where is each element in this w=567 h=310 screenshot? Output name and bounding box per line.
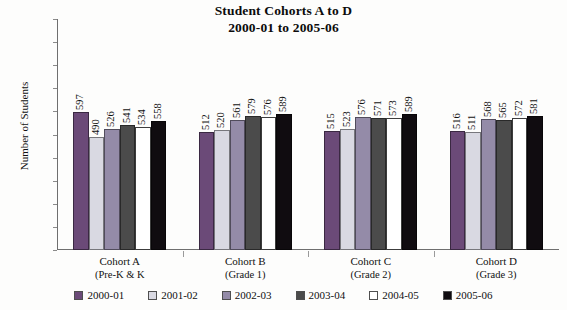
- page-title: Student Cohorts A to D: [0, 2, 567, 19]
- bar-value-label: 520: [215, 112, 226, 128]
- bar[interactable]: 520: [214, 130, 230, 250]
- bar-group: 512520561579576589: [183, 19, 309, 250]
- bar-value-label: 541: [121, 107, 132, 123]
- legend-label: 2003-04: [309, 290, 346, 301]
- bar[interactable]: 511: [465, 132, 481, 250]
- category-sublabel: (Grade 1): [183, 268, 309, 281]
- bar[interactable]: 576: [261, 117, 277, 250]
- bar-value-label: 561: [231, 103, 242, 119]
- bar-value-label: 589: [403, 96, 414, 112]
- bar-value-label: 558: [152, 103, 163, 119]
- bar-value-label: 534: [136, 109, 147, 125]
- bar-value-label: 523: [341, 111, 352, 127]
- bar[interactable]: 571: [371, 118, 387, 250]
- bar-chart-figure: Student Cohorts A to D 2000-01 to 2005-0…: [0, 0, 567, 310]
- bar-value-label: 579: [246, 99, 257, 115]
- bar[interactable]: 576: [355, 117, 371, 250]
- legend-swatch-icon: [296, 291, 305, 300]
- y-axis-title: Number of Students: [18, 36, 30, 216]
- legend-item[interactable]: 2001-02: [148, 290, 198, 301]
- bar-value-label: 589: [277, 96, 288, 112]
- bar-value-label: 571: [372, 100, 383, 116]
- bar[interactable]: 589: [402, 114, 418, 250]
- legend-item[interactable]: 2003-04: [296, 290, 346, 301]
- bar-value-label: 597: [74, 94, 85, 110]
- legend-swatch-icon: [443, 291, 452, 300]
- bar[interactable]: 573: [386, 118, 402, 250]
- plot-area: 10009008007006005004003002001000 5974905…: [57, 19, 559, 250]
- bar-value-label: 572: [513, 100, 524, 116]
- bar[interactable]: 558: [151, 121, 167, 250]
- legend-label: 2002-03: [235, 290, 272, 301]
- bar[interactable]: 541: [120, 125, 136, 250]
- category-sublabel: (Grade 3): [434, 268, 560, 281]
- legend-item[interactable]: 2002-03: [222, 290, 272, 301]
- legend-label: 2004-05: [382, 290, 419, 301]
- legend-swatch-icon: [369, 291, 378, 300]
- bar-value-label: 490: [90, 119, 101, 135]
- category-separator: [308, 251, 309, 257]
- bar-value-label: 515: [325, 113, 336, 129]
- category-sublabel: (Grade 2): [308, 268, 434, 281]
- x-axis-category-label: Cohort B(Grade 1): [183, 255, 309, 281]
- legend-item[interactable]: 2004-05: [369, 290, 419, 301]
- bar[interactable]: 512: [199, 132, 215, 250]
- bar-value-label: 576: [356, 99, 367, 115]
- bar[interactable]: 490: [89, 137, 105, 250]
- category-sublabel: (Pre-K & K: [57, 268, 183, 281]
- legend-swatch-icon: [74, 291, 83, 300]
- bar[interactable]: 579: [245, 116, 261, 250]
- bar-value-label: 576: [262, 99, 273, 115]
- bar[interactable]: 516: [450, 131, 466, 250]
- legend-swatch-icon: [222, 291, 231, 300]
- category-name: Cohort C: [308, 255, 434, 268]
- bar-value-label: 565: [497, 102, 508, 118]
- bar-value-label: 526: [105, 111, 116, 127]
- x-axis-category-label: Cohort C(Grade 2): [308, 255, 434, 281]
- bar[interactable]: 565: [496, 120, 512, 251]
- category-name: Cohort A: [57, 255, 183, 268]
- bar[interactable]: 581: [527, 116, 543, 250]
- legend-label: 2001-02: [161, 290, 198, 301]
- x-axis-category-label: Cohort A(Pre-K & K: [57, 255, 183, 281]
- bar-value-label: 573: [387, 100, 398, 116]
- category-name: Cohort D: [434, 255, 560, 268]
- bar[interactable]: 523: [340, 129, 356, 250]
- x-axis-category-label: Cohort D(Grade 3): [434, 255, 560, 281]
- category-separator: [434, 251, 435, 257]
- bar-group: 516511568565572581: [434, 19, 560, 250]
- bar-group: 597490526541534558: [57, 19, 183, 250]
- bar-value-label: 511: [466, 115, 477, 130]
- bar[interactable]: 597: [73, 112, 89, 250]
- category-separator: [183, 251, 184, 257]
- bar[interactable]: 526: [104, 129, 120, 251]
- bar-group: 515523576571573589: [308, 19, 434, 250]
- bar[interactable]: 515: [324, 131, 340, 250]
- legend-swatch-icon: [148, 291, 157, 300]
- bar[interactable]: 568: [481, 119, 497, 250]
- category-name: Cohort B: [183, 255, 309, 268]
- legend-item[interactable]: 2005-06: [443, 290, 493, 301]
- bar-value-label: 512: [200, 114, 211, 130]
- legend-label: 2005-06: [456, 290, 493, 301]
- bar[interactable]: 534: [135, 127, 151, 250]
- bar[interactable]: 589: [276, 114, 292, 250]
- legend-item[interactable]: 2000-01: [74, 290, 124, 301]
- bar[interactable]: 561: [230, 120, 246, 250]
- bar-value-label: 568: [482, 101, 493, 117]
- chart-legend: 2000-012001-022002-032003-042004-052005-…: [0, 290, 567, 301]
- bar-value-label: 516: [451, 113, 462, 129]
- bar-value-label: 581: [528, 98, 539, 114]
- legend-label: 2000-01: [87, 290, 124, 301]
- bar[interactable]: 572: [512, 118, 528, 250]
- y-axis-tick: [53, 250, 57, 251]
